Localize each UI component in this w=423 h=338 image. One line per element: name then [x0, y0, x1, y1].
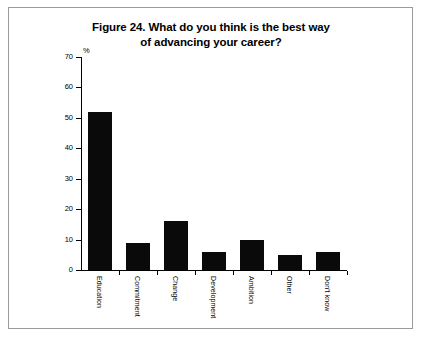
x-axis-label-ambition: Ambition: [248, 276, 255, 304]
y-tick-label-10: 10: [43, 236, 73, 243]
x-tick-1: [119, 271, 120, 275]
x-tick-6: [309, 271, 310, 275]
x-axis-label-don-t-know: Don't know: [324, 276, 331, 311]
bar-other: [278, 255, 302, 270]
plot-area: % 010203040506070 EducationCommitmentCha…: [9, 8, 414, 330]
x-tick-4: [233, 271, 234, 275]
x-tick-5: [271, 271, 272, 275]
y-tick-label-0: 0: [43, 266, 73, 273]
x-tick-2: [157, 271, 158, 275]
figure-border: Figure 24. What do you think is the best…: [8, 7, 413, 329]
bars-layer: [81, 57, 347, 270]
x-tick-3: [195, 271, 196, 275]
bar-education: [88, 112, 112, 270]
y-tick-0: [76, 270, 81, 271]
x-axis-label-education: Education: [96, 276, 103, 308]
x-axis-line: [81, 270, 347, 271]
bar-don-t-know: [316, 252, 340, 270]
bar-ambition: [240, 240, 264, 270]
x-axis-label-other: Other: [286, 276, 293, 294]
x-axis-label-development: Development: [210, 276, 217, 318]
y-axis-unit-label: %: [83, 46, 90, 55]
y-tick-label-20: 20: [43, 205, 73, 212]
x-axis-label-change: Change: [172, 276, 179, 301]
bar-development: [202, 252, 226, 270]
x-tick-7: [347, 271, 348, 275]
y-tick-label-70: 70: [43, 53, 73, 60]
y-tick-label-40: 40: [43, 144, 73, 151]
y-tick-label-60: 60: [43, 83, 73, 90]
y-tick-label-30: 30: [43, 175, 73, 182]
y-tick-label-50: 50: [43, 114, 73, 121]
x-axis-label-commitment: Commitment: [134, 276, 141, 317]
bar-commitment: [126, 243, 150, 270]
bar-change: [164, 221, 188, 270]
